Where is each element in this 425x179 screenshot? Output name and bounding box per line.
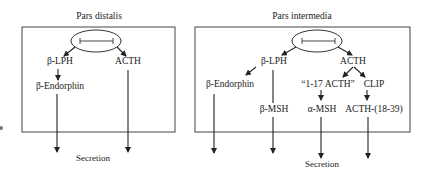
secretion-label-left: Secretion <box>76 154 110 163</box>
arrow-ellipse-to-acth-right <box>338 47 352 55</box>
node-beta-endorphin-left: β-Endorphin <box>36 82 84 92</box>
arrow-ellipse-to-acth-left <box>117 47 126 56</box>
arrow-acth-to-clip <box>354 67 365 77</box>
node-beta-endorphin-right: β-Endorphin <box>206 80 254 90</box>
pars-distalis-box <box>22 27 175 132</box>
node-clip: CLIP <box>364 80 385 90</box>
arrow-ellipse-to-blph-left <box>64 47 75 56</box>
node-beta-lph-right: β-LPH <box>261 57 287 67</box>
arrow-acth-to-acth117 <box>343 67 353 77</box>
panel-title-pars-distalis: Pars distalis <box>76 12 122 22</box>
precursor-ellipse-right <box>292 30 342 52</box>
node-acth-left: ACTH <box>115 57 141 67</box>
node-acth-right: ACTH <box>340 57 366 67</box>
node-alpha-msh: α-MSH <box>308 105 337 115</box>
secretion-label-right: Secretion <box>305 160 339 169</box>
node-beta-msh: β-MSH <box>260 105 289 115</box>
edge-mark <box>0 126 3 130</box>
panel-title-pars-intermedia: Pars intermedia <box>272 12 331 22</box>
node-acth-18-39: ACTH-(18-39) <box>345 105 403 115</box>
node-acth-1-17: “1-17 ACTH” <box>301 80 355 90</box>
arrow-blph-to-bendorphin-right <box>246 67 256 75</box>
arrow-ellipse-to-blph-right <box>282 47 296 55</box>
precursor-ellipse-left <box>71 30 121 52</box>
node-beta-lph-left: β-LPH <box>47 57 73 67</box>
